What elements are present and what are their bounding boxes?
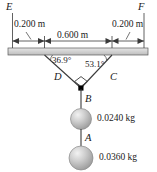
- arrowhead-inner-right-a: [106, 38, 113, 44]
- arrowhead-left-outer: [13, 38, 20, 44]
- dimension-label-right: 0.200 m: [112, 20, 143, 30]
- mass-label-upper: 0.0240 kg: [97, 114, 135, 124]
- angle-label-right: 53.1°: [85, 60, 104, 69]
- cord-label-A: A: [85, 133, 91, 144]
- cord-label-B: B: [85, 94, 91, 105]
- mass-label-lower: 0.0360 kg: [99, 153, 137, 163]
- dimension-label-left: 0.200 m: [14, 20, 45, 30]
- cord-label-C: C: [110, 72, 117, 83]
- upper-sphere: [71, 109, 92, 130]
- cord-label-D: D: [54, 72, 62, 83]
- ceiling-bar: [8, 48, 148, 55]
- point-label-E: E: [6, 2, 12, 13]
- lower-sphere: [69, 146, 93, 170]
- angle-arc-right: [104, 55, 107, 61]
- physics-figure: E F 0.200 m 0.600 m 0.200 m 36.9° 53.1° …: [0, 0, 157, 172]
- point-label-F: F: [138, 2, 144, 13]
- leader-right: [126, 32, 130, 40]
- arrowhead-right-outer: [138, 38, 145, 44]
- arrowhead-inner-right-b: [112, 38, 119, 44]
- leader-left: [26, 32, 31, 40]
- right-angle-marker: [75, 77, 88, 87]
- dimension-label-middle: 0.600 m: [57, 31, 88, 41]
- arrowhead-inner-left-b: [45, 38, 52, 44]
- angle-label-left: 36.9°: [52, 56, 71, 65]
- arrowhead-inner-left-a: [38, 38, 45, 44]
